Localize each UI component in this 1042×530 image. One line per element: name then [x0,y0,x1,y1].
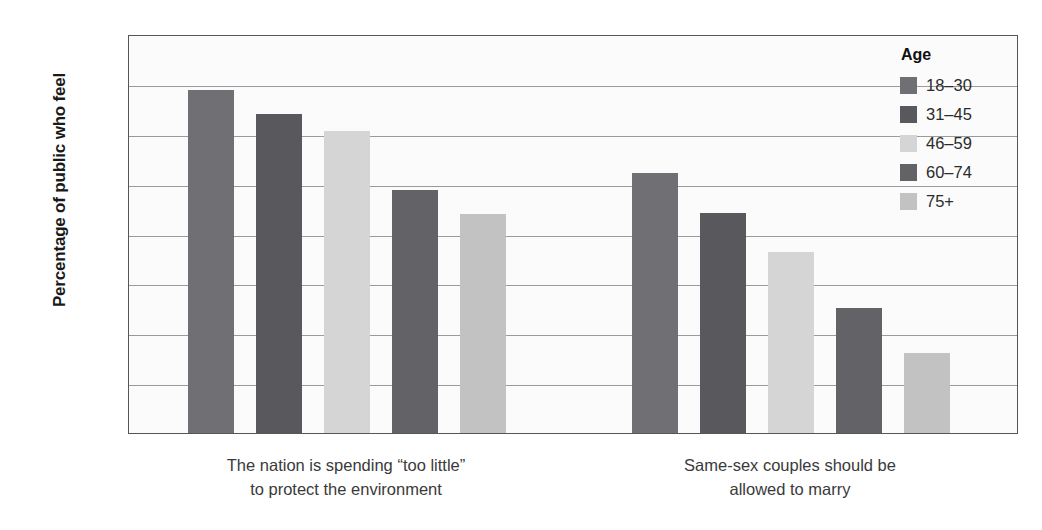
legend-swatch-icon [900,193,917,210]
legend-item[interactable]: 18–30 [900,71,1020,100]
legend-item-label: 31–45 [926,105,972,124]
bar [392,190,438,433]
bar [460,214,506,433]
legend-items: 18–3031–4546–5960–7475+ [900,71,1020,216]
legend-swatch-icon [900,77,917,94]
bar-chart-figure: Percentage of public who feel 0102030405… [0,0,1042,530]
bar [904,353,950,433]
bar [768,252,814,433]
legend: Age 18–3031–4546–5960–7475+ [900,46,1020,216]
y-axis-title: Percentage of public who feel [50,0,70,400]
bar [324,131,370,433]
bar [836,308,882,433]
x-axis-group-label-line: allowed to marry [590,478,990,502]
legend-item-label: 60–74 [926,163,972,182]
bar [188,90,234,433]
legend-item[interactable]: 31–45 [900,100,1020,129]
legend-swatch-icon [900,135,917,152]
legend-item[interactable]: 60–74 [900,158,1020,187]
legend-title: Age [900,46,1020,64]
gridline [129,86,1017,87]
legend-item-label: 46–59 [926,134,972,153]
x-axis-group-label: Same-sex couples should beallowed to mar… [590,454,990,502]
legend-item-label: 75+ [926,192,954,211]
bar [256,114,302,433]
bar [700,213,746,433]
bar [632,173,678,433]
legend-swatch-icon [900,106,917,123]
x-axis-group-label-line: Same-sex couples should be [590,454,990,478]
legend-item[interactable]: 75+ [900,187,1020,216]
plot-area [128,35,1018,434]
x-axis-group-label-line: to protect the environment [146,478,546,502]
legend-item[interactable]: 46–59 [900,129,1020,158]
legend-swatch-icon [900,164,917,181]
x-axis-group-label: The nation is spending “too little”to pr… [146,454,546,502]
legend-item-label: 18–30 [926,76,972,95]
x-axis-group-label-line: The nation is spending “too little” [146,454,546,478]
